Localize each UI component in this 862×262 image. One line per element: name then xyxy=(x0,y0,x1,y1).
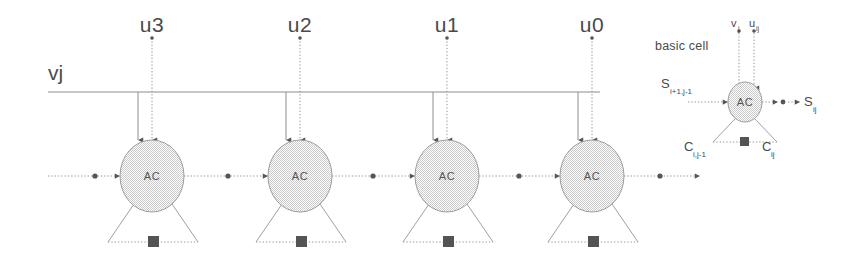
u-input-dropline-group xyxy=(150,36,594,140)
ac-cell-label: AC xyxy=(292,170,308,182)
input-label-u0: u0 xyxy=(580,13,604,36)
basic-cell-input-v-subscript: j xyxy=(737,25,740,33)
basic-cell-carry-left-symbol: C xyxy=(684,139,693,154)
basic-cell-input-s-subscript: i+1,j-1 xyxy=(670,87,693,96)
basic-cell-input-u-symbol: u xyxy=(749,17,755,29)
basic-cell-carry-right-symbol: C xyxy=(762,139,771,154)
basic-cell-input-v-symbol: v xyxy=(731,17,737,29)
basic-cell-output-s-symbol: S xyxy=(804,94,813,109)
basic-cell-carry-right-subscript: ij xyxy=(771,150,775,159)
figure-canvas: AC AC AC AC u3 u2 u1 xyxy=(0,0,862,262)
input-label-u3: u3 xyxy=(140,13,164,36)
vj-branch-group xyxy=(138,92,578,140)
ac-cell-group-4[interactable]: AC xyxy=(548,140,638,247)
ac-cell-group-2[interactable]: AC xyxy=(256,140,346,247)
input-label-u2: u2 xyxy=(288,13,312,36)
basic-cell-input-u-subscript: ij xyxy=(756,25,760,33)
circuit-diagram: AC AC AC AC u3 u2 u1 xyxy=(0,0,862,262)
basic-cell-ac-label: AC xyxy=(737,96,753,108)
basic-cell-carry-left-subscript: i,j-1 xyxy=(693,150,706,159)
carry-terminal-square xyxy=(296,236,307,247)
vj-label: vj xyxy=(48,61,63,84)
ac-cell-label: AC xyxy=(144,170,160,182)
ac-cell-label: AC xyxy=(439,170,455,182)
basic-cell-input-s-symbol: S xyxy=(661,76,670,91)
basic-cell-title: basic cell xyxy=(655,39,708,53)
carry-terminal-square xyxy=(588,236,599,247)
carry-terminal-square xyxy=(148,236,159,247)
ac-cell-label: AC xyxy=(584,170,600,182)
ac-cell-group-3[interactable]: AC xyxy=(403,140,493,247)
input-label-u1: u1 xyxy=(435,13,459,36)
ac-cell-group-1[interactable]: AC xyxy=(108,140,198,247)
basic-cell-detail: basic cell v j u ij S i+1,j-1 S ij AC xyxy=(655,17,817,159)
carry-terminal-square xyxy=(443,236,454,247)
basic-cell-output-s-subscript: ij xyxy=(813,105,817,114)
basic-cell-carry-square xyxy=(740,137,749,146)
